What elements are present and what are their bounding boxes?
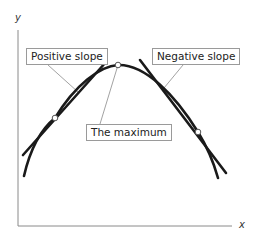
point-negative-slope <box>195 129 201 135</box>
point-positive-slope <box>52 115 58 121</box>
negative-slope-label: Negative slope <box>152 48 240 65</box>
negative-tangent-line <box>140 60 226 173</box>
leader-maximum <box>100 65 118 124</box>
diagram-svg <box>0 0 256 242</box>
diagram-canvas: y x Positive slope Negative slope The ma… <box>0 0 256 242</box>
positive-slope-label: Positive slope <box>26 48 108 65</box>
point-maximum <box>115 62 121 68</box>
maximum-label: The maximum <box>86 124 172 141</box>
x-axis-label: x <box>239 219 245 230</box>
y-axis-label: y <box>15 12 21 23</box>
positive-tangent-line <box>23 62 106 155</box>
leader-negative <box>164 65 183 88</box>
leader-positive <box>48 65 78 92</box>
